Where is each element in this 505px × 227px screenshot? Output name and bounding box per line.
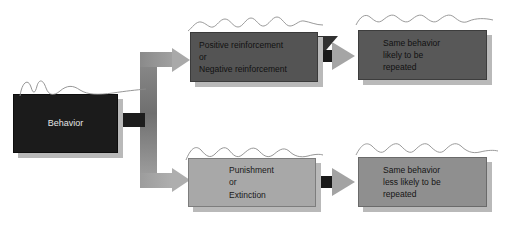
node-behavior-label: Behavior [14, 117, 117, 130]
node-same-behavior-likely[interactable]: Same behavior likely to be repeated [358, 30, 487, 80]
lower-branch-run [140, 173, 175, 188]
arrow-to-reinforcement-head-icon [172, 48, 190, 72]
node-behavior-face: Behavior [13, 94, 118, 153]
node-same-behavior-likely-face: Same behavior likely to be repeated [358, 30, 487, 80]
node-same-behavior-less-likely-label: Same behavior less likely to be repeated [359, 164, 486, 200]
squiggle-over-same-behavior-likely-icon [354, 8, 494, 28]
diagram-canvas: Behavior Positive reinforcement or Negat… [0, 0, 505, 227]
node-punishment-face: Punishment or Extinction [188, 158, 316, 207]
node-reinforcement[interactable]: Positive reinforcement or Negative reinf… [190, 32, 318, 82]
node-same-behavior-less-likely[interactable]: Same behavior less likely to be repeated [358, 157, 487, 207]
upper-branch-run [140, 52, 175, 67]
node-reinforcement-label: Positive reinforcement or Negative reinf… [191, 39, 317, 75]
node-punishment[interactable]: Punishment or Extinction [188, 158, 316, 207]
node-behavior[interactable]: Behavior [13, 94, 118, 153]
node-punishment-label: Punishment or Extinction [189, 164, 315, 200]
node-same-behavior-less-likely-face: Same behavior less likely to be repeated [358, 157, 487, 207]
punishment-to-less-likely-head-icon [332, 168, 355, 196]
squiggle-over-same-behavior-less-likely-icon [354, 136, 499, 158]
node-reinforcement-face: Positive reinforcement or Negative reinf… [190, 32, 318, 82]
reinforcement-to-likely-head-icon [332, 42, 355, 70]
node-same-behavior-likely-label: Same behavior likely to be repeated [359, 37, 486, 73]
squiggle-over-reinforcement-icon [186, 12, 324, 32]
